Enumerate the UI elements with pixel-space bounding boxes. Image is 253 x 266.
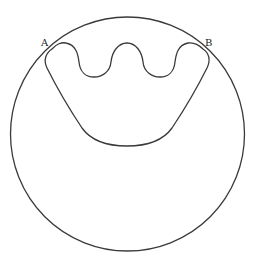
inner-wavy-curve [45, 43, 209, 146]
geometry-diagram: A B [0, 0, 253, 266]
point-a-label: A [40, 37, 49, 48]
outer-circle [11, 17, 245, 251]
point-b-label: B [205, 37, 212, 48]
